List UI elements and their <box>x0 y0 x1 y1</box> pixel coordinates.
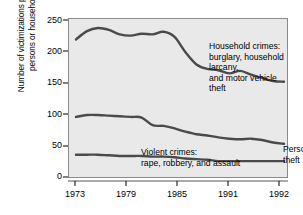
x-tick-label-1979: 1979 <box>106 190 146 199</box>
x-tick-label-1992: 1992 <box>259 190 299 199</box>
annotation-household-crimes: Household crimes: burglary, household la… <box>209 41 287 94</box>
crime-victimization-line-chart: Number of victimizations per 1,000 perso… <box>0 0 303 215</box>
x-tick-label-1973: 1973 <box>55 190 95 199</box>
plot-area: Household crimes: burglary, household la… <box>68 18 288 178</box>
x-tick-label-1991: 1991 <box>208 190 248 199</box>
annotation-personal-theft: Personal theft <box>283 144 303 165</box>
x-tick-label-1985: 1985 <box>157 190 197 199</box>
line-personal-theft <box>76 115 284 144</box>
annotation-violent-crimes: Violent crimes: rape, robbery, and assau… <box>141 147 240 168</box>
